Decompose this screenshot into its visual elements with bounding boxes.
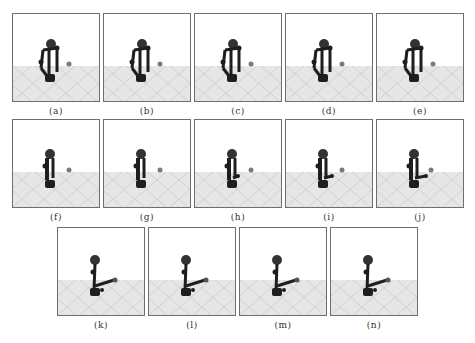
panel-caption: (e) [376,106,464,116]
panel-caption: (h) [194,212,282,222]
panel-h [194,119,282,208]
panel-caption: (b) [103,106,191,116]
simulation-render [286,14,372,101]
panel-caption: (i) [285,212,373,222]
panel-g [103,119,191,208]
panel-b [103,13,191,102]
simulation-render [377,120,463,207]
panel-caption: (d) [285,106,373,116]
simulation-render [377,14,463,101]
panel-c [194,13,282,102]
panel-j [376,119,464,208]
panel-caption: (n) [330,320,418,330]
simulation-render [286,120,372,207]
panel-f [12,119,100,208]
panel-i [285,119,373,208]
simulation-render [104,14,190,101]
panel-d [285,13,373,102]
simulation-render [195,14,281,101]
panel-caption: (m) [239,320,327,330]
panel-caption: (j) [376,212,464,222]
panel-n [330,227,418,316]
panel-caption: (c) [194,106,282,116]
simulation-render [104,120,190,207]
simulation-render [331,228,417,315]
simulation-render [240,228,326,315]
simulation-render [13,120,99,207]
simulation-render [149,228,235,315]
panel-k [57,227,145,316]
panel-l [148,227,236,316]
panel-e [376,13,464,102]
panel-caption: (g) [103,212,191,222]
simulation-render [13,14,99,101]
panel-m [239,227,327,316]
panel-caption: (l) [148,320,236,330]
simulation-render [195,120,281,207]
panel-caption: (a) [12,106,100,116]
simulation-render [58,228,144,315]
panel-caption: (k) [57,320,145,330]
panel-a [12,13,100,102]
panel-caption: (f) [12,212,100,222]
